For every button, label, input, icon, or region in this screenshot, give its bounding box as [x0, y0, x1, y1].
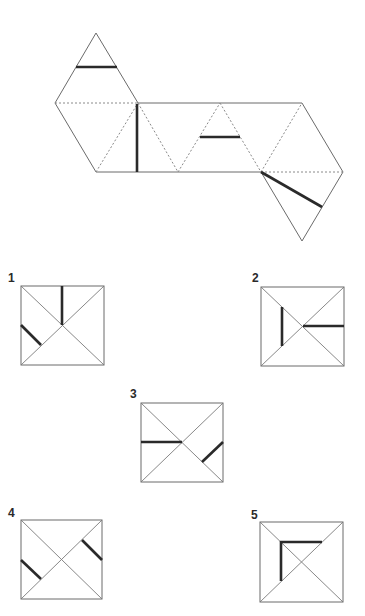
option-3-label: 3 [130, 388, 137, 400]
octahedron-net [55, 33, 343, 241]
fold-line [96, 103, 138, 172]
puzzle-canvas [0, 0, 365, 616]
option-4-figure[interactable] [21, 520, 102, 599]
option-5-label: 5 [251, 509, 258, 521]
fold-line [138, 103, 178, 172]
option-1-figure[interactable] [21, 286, 104, 365]
fold-line [261, 103, 302, 172]
net-mark-lower [261, 172, 322, 207]
option-2-figure[interactable] [261, 287, 344, 366]
option-3-figure[interactable] [141, 403, 223, 482]
option-2-label: 2 [252, 272, 259, 284]
option-5-figure[interactable] [260, 522, 343, 602]
option-4-label: 4 [8, 507, 15, 519]
option-1-label: 1 [8, 272, 15, 284]
